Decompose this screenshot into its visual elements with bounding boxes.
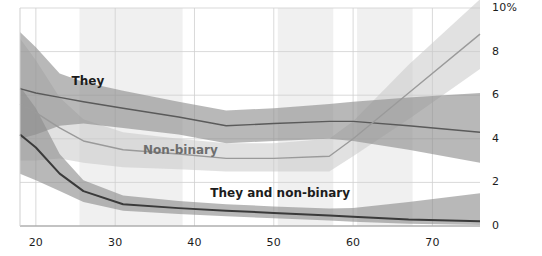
y-tick-label-2: 2 <box>492 175 499 188</box>
x-tick-label-30: 30 <box>108 236 122 249</box>
x-tick-label-40: 40 <box>187 236 201 249</box>
y-tick-label-6: 6 <box>492 88 499 101</box>
series-annotation-non-binary: Non-binary <box>143 143 218 157</box>
series-annotation-they: They <box>72 74 105 88</box>
y-tick-label-0: 0 <box>492 219 499 232</box>
y-tick-label-10%: 10% <box>492 1 517 14</box>
x-tick-label-70: 70 <box>425 236 439 249</box>
x-tick-label-50: 50 <box>267 236 281 249</box>
x-tick-label-20: 20 <box>29 236 43 249</box>
x-tick-label-60: 60 <box>346 236 360 249</box>
y-tick-label-4: 4 <box>492 132 499 145</box>
series-annotation-they-and-non-binary: They and non-binary <box>210 186 350 200</box>
y-tick-label-8: 8 <box>492 45 499 58</box>
chart-container: 0246810%203040506070TheyNon-binaryThey a… <box>0 0 542 256</box>
chart-plot-area <box>0 0 542 256</box>
